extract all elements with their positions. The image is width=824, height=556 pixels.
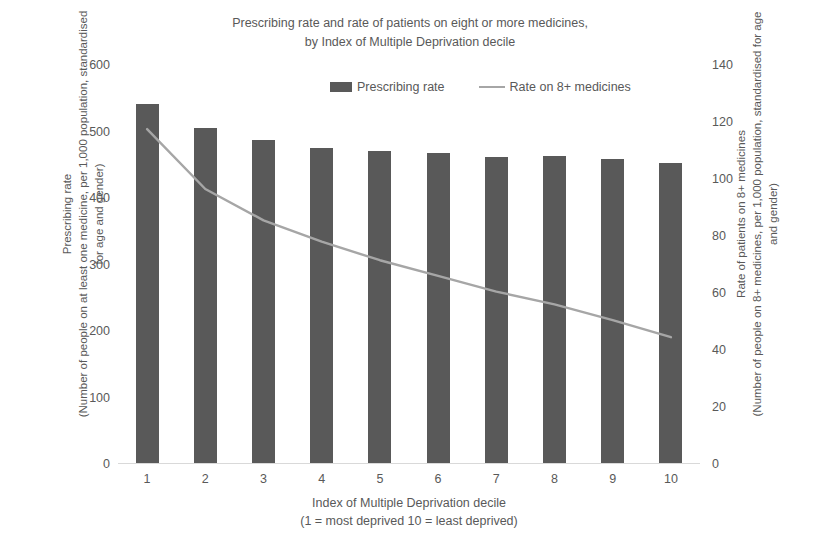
y-axis-right-title-main: Rate of patients on 8+ medicines xyxy=(733,4,749,424)
chart-title-line-2: by Index of Multiple Deprivation decile xyxy=(160,33,660,52)
x-axis-tick-label-10: 10 xyxy=(664,472,678,486)
line-series-rate-on-8-plus-medicines xyxy=(118,65,700,464)
y-axis-left-title-sub: (Number of people on at least one medici… xyxy=(75,4,107,424)
plot-area xyxy=(118,65,700,464)
x-axis-tick-label-5: 5 xyxy=(376,472,383,486)
x-axis-title: Index of Multiple Deprivation decile (1 … xyxy=(118,494,700,530)
y-axis-left-title-main: Prescribing rate xyxy=(59,4,75,424)
y-axis-right-tick-label: 0 xyxy=(712,457,719,471)
y-axis-right-tick-label: 40 xyxy=(712,343,726,357)
x-axis-tick-label-8: 8 xyxy=(551,472,558,486)
y-axis-right-tick-label: 20 xyxy=(712,400,726,414)
x-axis-tick-label-1: 1 xyxy=(144,472,151,486)
y-axis-right-tick-label: 140 xyxy=(712,58,733,72)
x-axis-tick-label-3: 3 xyxy=(260,472,267,486)
x-axis-tick-label-4: 4 xyxy=(318,472,325,486)
x-axis-tick-label-9: 9 xyxy=(609,472,616,486)
y-axis-right-tick-label: 60 xyxy=(712,286,726,300)
x-axis-title-main: Index of Multiple Deprivation decile xyxy=(118,494,700,512)
y-axis-right-title-sub: (Number of people on 8+ medicines, per 1… xyxy=(749,4,781,424)
line-path xyxy=(147,129,671,337)
x-axis-line xyxy=(118,463,700,464)
x-axis-title-sub: (1 = most deprived 10 = least deprived) xyxy=(118,512,700,530)
y-axis-left-title: Prescribing rate (Number of people on at… xyxy=(59,4,107,424)
y-axis-right-title: Rate of patients on 8+ medicines (Number… xyxy=(733,4,781,424)
chart-title: Prescribing rate and rate of patients on… xyxy=(160,14,660,52)
chart-figure: Prescribing rate and rate of patients on… xyxy=(0,0,824,556)
x-axis-tick-label-2: 2 xyxy=(202,472,209,486)
x-axis-tick-label-6: 6 xyxy=(435,472,442,486)
y-axis-right-tick-label: 100 xyxy=(712,172,733,186)
y-axis-left-tick-label: 0 xyxy=(103,457,110,471)
y-axis-right-tick-label: 80 xyxy=(712,229,726,243)
y-axis-right-tick-label: 120 xyxy=(712,115,733,129)
chart-title-line-1: Prescribing rate and rate of patients on… xyxy=(160,14,660,33)
x-axis-tick-label-7: 7 xyxy=(493,472,500,486)
